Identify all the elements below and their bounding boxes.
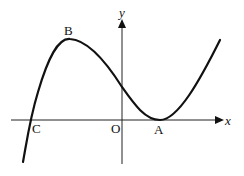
origin-label: O (111, 121, 120, 136)
cubic-graph: B C O A x y (0, 0, 244, 176)
point-b-label: B (64, 23, 73, 38)
y-axis-arrow-icon (118, 19, 126, 28)
x-axis-arrow-icon (215, 116, 224, 124)
y-axis-label: y (117, 5, 125, 20)
x-axis-label: x (224, 113, 231, 128)
point-c-label: C (32, 121, 41, 136)
point-a-label: A (154, 122, 164, 137)
